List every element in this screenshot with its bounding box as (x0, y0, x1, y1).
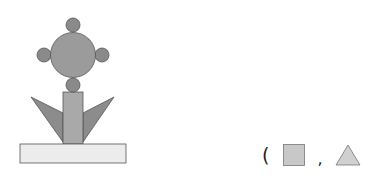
comma-separator: , (317, 151, 322, 167)
bottom-small-circle (66, 78, 80, 92)
left-leaf-triangle (31, 97, 63, 142)
open-parenthesis: ( (262, 146, 269, 165)
right-leaf-triangle (83, 97, 114, 142)
answer-blank: ( , (262, 138, 361, 172)
left-small-circle (37, 48, 51, 62)
square-shape-icon (283, 144, 305, 166)
stem-rectangle (63, 92, 83, 144)
triangle-shape-icon (335, 144, 361, 166)
top-small-circle (66, 18, 80, 32)
base-rectangle (20, 144, 126, 163)
right-small-circle (95, 48, 109, 62)
big-center-circle (51, 33, 96, 78)
